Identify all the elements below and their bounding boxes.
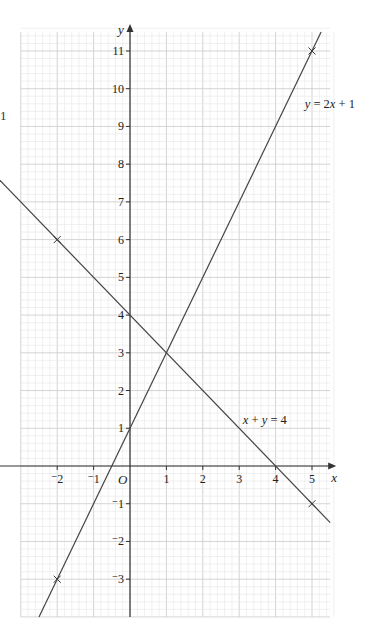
y-tick-label: 10 <box>112 82 124 96</box>
y-tick-label: 11 <box>112 44 124 58</box>
y-tick-label: 2 <box>118 384 124 398</box>
x-tick-label: 1 <box>163 472 169 486</box>
y-tick-label: 1 <box>118 421 124 435</box>
y-tick-label: 3 <box>118 346 124 360</box>
y-tick-label: 6 <box>118 233 124 247</box>
x-tick-label: 5 <box>309 472 315 486</box>
line-label: y = 2x + 1 <box>303 97 355 111</box>
y-tick-label: 8 <box>118 157 124 171</box>
axes <box>0 24 336 617</box>
y-tick-label: ⁻1 <box>112 497 124 511</box>
y-tick-label: 9 <box>118 119 124 133</box>
x-tick-label: 4 <box>273 472 279 486</box>
y-tick-label: 4 <box>118 308 124 322</box>
x-tick-label: 2 <box>200 472 206 486</box>
x-axis-arrow-icon <box>328 463 336 470</box>
y-tick-label: ⁻3 <box>112 572 124 586</box>
x-tick-label: 3 <box>236 472 242 486</box>
coordinate-graph: ⁻2⁻112345⁻3⁻2⁻11234567891011Oxy y = 2x +… <box>0 0 367 636</box>
x-tick-label: ⁻2 <box>51 472 63 486</box>
line-y-equals-2x-plus-1 <box>39 32 321 617</box>
y-tick-label: 5 <box>118 270 124 284</box>
plotted-lines <box>0 32 330 617</box>
graph-grid <box>21 28 334 617</box>
y-tick-label: 7 <box>118 195 124 209</box>
y-axis-label: y <box>116 22 124 37</box>
origin-label: O <box>118 472 128 487</box>
x-axis-label: x <box>330 470 337 485</box>
line-label: x + y = 4 <box>242 413 288 427</box>
y-tick-label: ⁻2 <box>112 534 124 548</box>
x-tick-label: ⁻1 <box>87 472 99 486</box>
